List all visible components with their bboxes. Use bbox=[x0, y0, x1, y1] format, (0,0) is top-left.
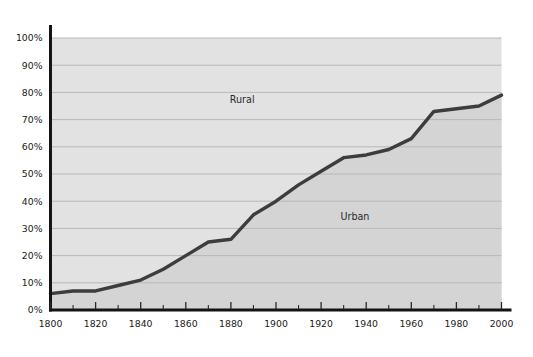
y-tick-label-20: 20% bbox=[22, 250, 43, 261]
x-tick-label-1960: 1960 bbox=[399, 318, 423, 329]
x-tick-label-1860: 1860 bbox=[174, 318, 198, 329]
y-tick-label-90: 90% bbox=[22, 60, 43, 71]
x-tick-label-2000: 2000 bbox=[490, 318, 514, 329]
x-tick-label-1800: 1800 bbox=[39, 318, 63, 329]
y-tick-label-70: 70% bbox=[22, 114, 43, 125]
y-axis-tick-labels: 0%10%20%30%40%50%60%70%80%90%100% bbox=[16, 32, 43, 315]
y-tick-label-0: 0% bbox=[28, 304, 43, 315]
chart-container: 0%10%20%30%40%50%60%70%80%90%100% 180018… bbox=[0, 0, 533, 357]
x-tick-label-1980: 1980 bbox=[445, 318, 469, 329]
x-tick-label-1920: 1920 bbox=[309, 318, 333, 329]
y-tick-label-10: 10% bbox=[22, 277, 43, 288]
y-tick-label-60: 60% bbox=[22, 141, 43, 152]
y-tick-label-80: 80% bbox=[22, 87, 43, 98]
x-tick-label-1900: 1900 bbox=[264, 318, 288, 329]
x-tick-label-1820: 1820 bbox=[84, 318, 108, 329]
x-tick-label-1840: 1840 bbox=[129, 318, 153, 329]
urban-rural-population-area-chart: 0%10%20%30%40%50%60%70%80%90%100% 180018… bbox=[0, 0, 533, 357]
y-tick-label-40: 40% bbox=[22, 196, 43, 207]
x-tick-label-1880: 1880 bbox=[219, 318, 243, 329]
y-tick-label-50: 50% bbox=[22, 168, 43, 179]
x-tick-label-1940: 1940 bbox=[354, 318, 378, 329]
y-tick-label-100: 100% bbox=[16, 32, 43, 43]
annotation-urban: Urban bbox=[340, 211, 369, 222]
y-tick-label-30: 30% bbox=[22, 223, 43, 234]
annotation-rural: Rural bbox=[230, 94, 255, 105]
x-axis-tick-labels: 1800182018401860188019001920194019601980… bbox=[39, 318, 514, 329]
